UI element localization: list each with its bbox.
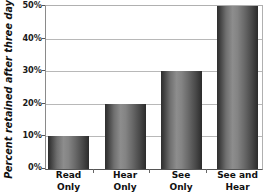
x-category-label-see-only: See Only [153,170,209,193]
y-tick-label-30: 30% [14,66,42,74]
x-category-label-line1: See and [217,170,258,180]
x-category-label-hear-only: Hear Only [97,170,153,193]
x-category-label-line2: Only [40,182,97,194]
y-tick-label-0: 0% [14,163,42,171]
x-category-label-line2: Hear [209,182,266,194]
y-axis-tick-labels: 50% 40% 30% 20% 10% 0% [14,0,42,195]
x-category-label-line1: Hear [113,170,137,180]
x-category-label-line1: See [172,170,191,180]
x-category-label-line2: Only [153,182,209,194]
y-axis-title-text: Percent retained after three days [3,0,14,178]
x-category-label-line2: Only [97,182,153,194]
plot-area [45,5,263,170]
x-category-label-see-and-hear: See and Hear [209,170,266,193]
y-tick-label-10: 10% [14,131,42,139]
bar-see-and-hear [217,6,258,169]
bar-hear-only [105,104,146,169]
x-category-label-read-only: Read Only [40,170,97,193]
bar-read-only [48,136,89,169]
bar-chart: Percent retained after three days 50% 40… [0,0,267,195]
y-tick-label-50: 50% [14,1,42,9]
y-tick-label-20: 20% [14,99,42,107]
bar-see-only [161,71,202,169]
y-tick-label-40: 40% [14,34,42,42]
x-category-label-line1: Read [56,170,82,180]
